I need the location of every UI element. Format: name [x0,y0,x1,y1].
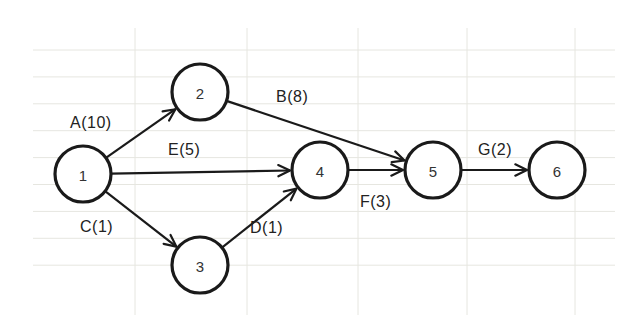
edge-line [111,171,290,174]
node-label: 4 [316,163,324,180]
node-label: 2 [196,85,204,102]
edge-label: C(1) [80,218,113,235]
node-1: 1 [55,146,111,202]
edge-label: G(2) [478,141,512,158]
node-2: 2 [172,64,228,120]
node-6: 6 [529,142,585,198]
node-label: 1 [79,167,87,184]
edge-E: E(5) [111,141,290,176]
node-label: 3 [196,258,204,275]
node-3: 3 [172,237,228,293]
edge-label: E(5) [168,141,200,158]
node-4: 4 [292,142,348,198]
node-5: 5 [405,142,461,198]
edge-label: F(3) [360,193,391,210]
network-diagram: A(10)B(8)E(5)C(1)D(1)F(3)G(2) 123456 [0,0,636,332]
node-label: 6 [553,163,561,180]
edge-line [106,109,176,158]
edge-F: F(3) [348,164,403,210]
edge-label: A(10) [70,114,112,131]
edge-label: B(8) [276,88,308,105]
node-label: 5 [429,163,437,180]
edge-G: G(2) [461,141,527,176]
edge-label: D(1) [250,219,283,236]
